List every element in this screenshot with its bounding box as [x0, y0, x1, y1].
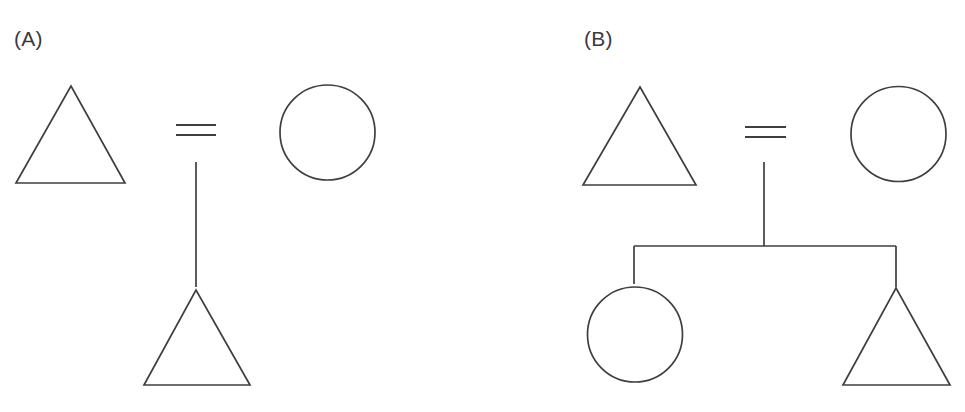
hitbox-triangle-a-top — [16, 86, 125, 183]
hitbox-equals-a — [176, 121, 216, 139]
hitbox-triangle-a-child — [144, 290, 250, 385]
hitbox-triangle-b-top — [583, 87, 696, 185]
hitbox-equals-b — [745, 123, 786, 141]
panel-label-b: (B) — [584, 28, 613, 49]
hitbox-circle-a-top — [280, 85, 375, 180]
figure-root: (A) (B) — [0, 0, 965, 412]
panel-label-a: (A) — [14, 28, 43, 49]
hitbox-triangle-b-child — [843, 288, 950, 385]
hitbox-circle-b-top — [851, 86, 946, 182]
hitbox-circle-b-child — [587, 287, 683, 382]
cut-off-heading — [0, 0, 965, 2]
